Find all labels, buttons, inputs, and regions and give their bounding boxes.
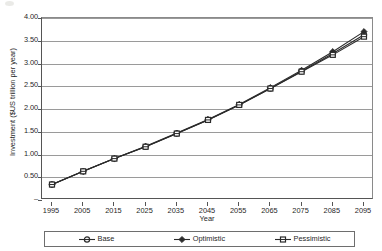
y-axis-tick-label: 4.00	[2, 13, 38, 20]
y-axis-tick-label: 1.50	[2, 127, 38, 134]
square-marker-icon	[275, 235, 291, 244]
legend-label: Pessimistic	[294, 235, 331, 243]
series-layer	[42, 18, 372, 198]
plot-area	[41, 17, 373, 199]
y-axis-tick-label: 1.00	[2, 150, 38, 157]
legend-entry-pessimistic[interactable]: Pessimistic	[251, 235, 354, 244]
x-axis-title: Year	[41, 214, 373, 223]
chart-legend: BaseOptimisticPessimistic	[44, 231, 355, 247]
legend-entry-optimistic[interactable]: Optimistic	[148, 235, 251, 244]
y-axis-tick-label: –	[2, 195, 38, 202]
scan-artifact	[5, 1, 14, 6]
diamond-marker-icon	[174, 235, 190, 244]
y-axis-tick-label: 2.50	[2, 81, 38, 88]
x-axis-labels: 1995200520152025203520452055206520752085…	[41, 202, 373, 214]
legend-label: Optimistic	[193, 235, 225, 243]
legend-label: Base	[98, 235, 115, 243]
legend-entry-base[interactable]: Base	[45, 235, 148, 244]
y-axis-labels: –0.501.001.502.002.503.003.504.00	[0, 17, 38, 199]
series-optimistic	[49, 29, 367, 188]
circle-marker-icon	[79, 235, 95, 244]
chart-figure: Investment ($US trillion per year) –0.50…	[0, 0, 382, 251]
y-axis-tick-label: 2.00	[2, 104, 38, 111]
y-axis-tick-label: 0.50	[2, 172, 38, 179]
y-axis-tick	[38, 200, 42, 201]
series-base	[49, 32, 366, 187]
series-pessimistic	[50, 34, 367, 187]
y-axis-tick-label: 3.00	[2, 59, 38, 66]
y-axis-tick-label: 3.50	[2, 36, 38, 43]
